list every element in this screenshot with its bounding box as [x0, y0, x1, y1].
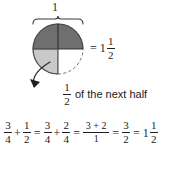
term-2-numerator: 1 [23, 120, 31, 131]
term-6-denominator: 2 [122, 134, 130, 145]
next-half-caption: 1 2 of the next half [63, 82, 147, 107]
caption-fraction: 1 2 [63, 82, 71, 107]
result-numerator: 1 [107, 36, 115, 47]
equation-term-1: 3 4 [4, 120, 12, 145]
term-7-numerator: 1 [150, 120, 158, 131]
equation-operator-3: + [54, 127, 61, 139]
term-3-numerator: 3 [44, 120, 52, 131]
equation-term-5: 3 + 2 1 [83, 121, 109, 144]
whole-label: 1 [52, 1, 58, 13]
equation-line: 3 4 + 1 2 = 3 4 + 2 4 = 3 + 2 1 = 3 2 = … [4, 120, 158, 145]
term-4-numerator: 2 [63, 120, 71, 131]
result-denominator: 2 [107, 50, 115, 61]
result-equals-sign: = [90, 41, 97, 56]
caption-denominator: 2 [63, 96, 71, 107]
equation-operator-4: = [73, 127, 80, 139]
term-7-denominator: 2 [150, 134, 158, 145]
term-5-denominator: 1 [93, 134, 100, 144]
whole-brace-icon [33, 16, 83, 24]
caption-text: of the next half [75, 89, 147, 100]
equation-operator-1: + [14, 127, 21, 139]
term-4-denominator: 4 [63, 134, 71, 145]
fraction-circle [33, 24, 83, 74]
term-6-numerator: 3 [122, 120, 130, 131]
equation-term-2: 1 2 [23, 120, 31, 145]
result-whole-number: 1 [100, 41, 106, 56]
equation-result-whole: 1 [143, 127, 149, 139]
term-1-numerator: 3 [4, 120, 12, 131]
equation-operator-5: = [112, 127, 119, 139]
equation-operator-2: = [34, 127, 41, 139]
equation-term-4: 2 4 [62, 120, 70, 145]
circle-result: = 1 1 2 [90, 36, 115, 61]
caption-numerator: 1 [63, 82, 71, 93]
term-3-denominator: 4 [44, 134, 52, 145]
term-5-numerator: 3 + 2 [85, 121, 108, 131]
equation-term-7: 1 2 [150, 120, 158, 145]
term-2-denominator: 2 [23, 134, 31, 145]
term-1-denominator: 4 [4, 134, 12, 145]
equation-operator-6: = [133, 127, 140, 139]
equation-term-3: 3 4 [44, 120, 52, 145]
result-fraction: 1 2 [107, 36, 115, 61]
equation-term-6: 3 2 [122, 120, 130, 145]
